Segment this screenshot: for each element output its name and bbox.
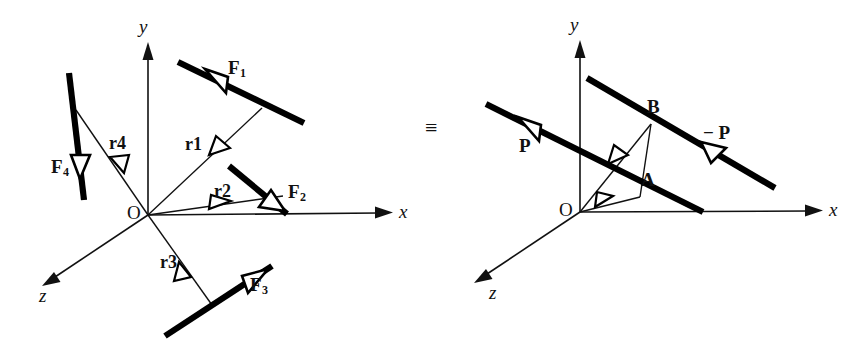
left-position-label-r1: r1 bbox=[185, 135, 202, 153]
left-force-label-F3: F3 bbox=[250, 275, 268, 296]
right-y-axis bbox=[575, 40, 586, 212]
right-OA-vector bbox=[580, 192, 640, 212]
left-r3-base: r bbox=[160, 252, 168, 272]
left-force-F1-subscript: 1 bbox=[240, 66, 246, 80]
left-force-F2 bbox=[229, 166, 287, 214]
right-axis-label-z: z bbox=[489, 283, 496, 302]
left-force-F4 bbox=[69, 73, 90, 200]
left-axis-label-y: y bbox=[139, 17, 147, 36]
right-force-label-minus-P: − P bbox=[703, 123, 730, 142]
left-r3-vector bbox=[148, 215, 212, 305]
left-force-F2-base: F bbox=[288, 181, 300, 202]
right-force-P bbox=[486, 104, 703, 212]
right-origin-label: O bbox=[559, 200, 573, 219]
left-force-F1-base: F bbox=[228, 57, 240, 78]
left-r4-base: r bbox=[109, 133, 117, 153]
left-z-axis bbox=[42, 215, 148, 286]
left-position-label-r3: r3 bbox=[160, 253, 177, 271]
right-point-label-B: B bbox=[647, 97, 660, 116]
left-axis-label-x: x bbox=[399, 202, 407, 221]
left-force-F4-subscript: 4 bbox=[63, 165, 69, 179]
left-r1-subscript: 1 bbox=[193, 134, 202, 154]
left-force-label-F1: F1 bbox=[228, 58, 246, 79]
equivalence-symbol: ≡ bbox=[425, 117, 437, 139]
left-r2-subscript: 2 bbox=[222, 181, 231, 201]
left-force-F4-base: F bbox=[51, 156, 63, 177]
diagram-vector-canvas bbox=[0, 0, 867, 354]
right-axis-label-y: y bbox=[570, 15, 578, 34]
left-r4-subscript: 4 bbox=[117, 133, 126, 153]
left-force-F3-subscript: 3 bbox=[262, 283, 268, 297]
left-force-label-F2: F2 bbox=[288, 182, 306, 203]
right-diagram-group bbox=[474, 40, 823, 283]
left-r1-vector bbox=[148, 108, 262, 215]
right-z-axis bbox=[474, 212, 580, 283]
left-force-label-F4: F4 bbox=[51, 157, 69, 178]
right-force-label-P: P bbox=[519, 136, 531, 155]
left-origin-label: O bbox=[127, 203, 141, 222]
left-force-F3-base: F bbox=[250, 274, 262, 295]
force-system-equivalence-figure: y x z O F1 F2 F3 F4 r1 r2 r3 r4 ≡ y x z … bbox=[0, 0, 867, 354]
left-position-label-r4: r4 bbox=[109, 134, 126, 152]
left-force-F2-subscript: 2 bbox=[300, 190, 306, 204]
left-r2-base: r bbox=[214, 181, 222, 201]
right-axis-label-x: x bbox=[829, 200, 837, 219]
left-position-label-r2: r2 bbox=[214, 182, 231, 200]
left-axis-label-z: z bbox=[39, 286, 46, 305]
left-y-axis bbox=[143, 42, 154, 215]
right-point-label-A: A bbox=[641, 170, 655, 189]
left-r1-base: r bbox=[185, 134, 193, 154]
left-r3-subscript: 3 bbox=[168, 252, 177, 272]
